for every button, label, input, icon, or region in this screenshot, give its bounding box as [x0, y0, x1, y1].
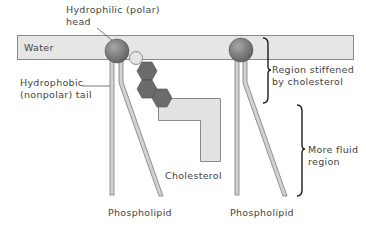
water-band — [18, 36, 354, 60]
phospholipid-right — [229, 38, 287, 196]
cholesterol-hydroxyl-icon — [130, 52, 143, 65]
tail-straight — [110, 60, 114, 195]
tail-label-line1: Hydrophobic — [20, 77, 83, 89]
membrane-diagram — [0, 0, 366, 229]
tail-label-line2: (nonpolar) tail — [20, 89, 92, 101]
water-label: Water — [24, 42, 54, 54]
head-label-line1: Hydrophilic (polar) — [66, 4, 160, 16]
tail-straight — [235, 60, 239, 195]
phospholipid-head-icon — [105, 39, 129, 63]
fluid-region-label-line2: region — [308, 156, 340, 168]
head-label-line2: head — [66, 16, 91, 28]
tail-bent — [119, 60, 163, 196]
phospholipid-head-icon — [229, 38, 253, 62]
phospholipid-left-label: Phospholipid — [108, 207, 172, 219]
stiffened-region-label-line2: by cholesterol — [272, 76, 343, 88]
cholesterol-label: Cholesterol — [165, 170, 222, 182]
stiffened-region-label-line1: Region stiffened — [272, 64, 354, 76]
fluid-region-label-line1: More fluid — [308, 144, 358, 156]
brace-fluid-icon — [297, 105, 305, 196]
hexagon-ring-1 — [137, 62, 157, 80]
phospholipid-right-label: Phospholipid — [230, 207, 294, 219]
cholesterol-body — [159, 99, 221, 162]
